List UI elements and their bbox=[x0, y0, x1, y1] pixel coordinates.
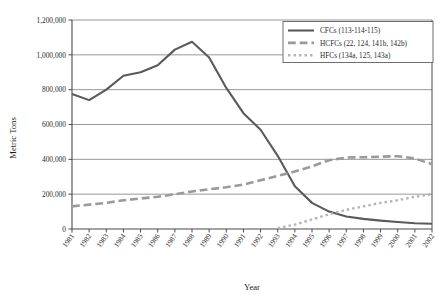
legend-label-1: CFCs (113-114-115) bbox=[320, 26, 381, 35]
chart-legend: CFCs (113-114-115)HCFCs (22, 124, 141b, … bbox=[283, 22, 433, 63]
chart-container: 0200,000400,000600,000800,0001,000,0001,… bbox=[0, 0, 448, 296]
y-tick-label: 800,000 bbox=[42, 85, 66, 94]
x-axis-title: Year bbox=[244, 282, 260, 292]
y-axis-title: Metric Tons bbox=[8, 117, 18, 159]
line-chart: 0200,000400,000600,000800,0001,000,0001,… bbox=[0, 0, 448, 296]
y-tick-label: 400,000 bbox=[42, 155, 66, 164]
y-tick-label: 0 bbox=[62, 225, 66, 234]
legend-label-2: HCFCs (22, 124, 141b, 142b) bbox=[320, 39, 408, 48]
y-tick-label: 1,000,000 bbox=[36, 51, 66, 60]
y-tick-label: 1,200,000 bbox=[36, 16, 66, 25]
legend-label-3: HFCs (134a, 125, 143a) bbox=[320, 51, 391, 60]
y-tick-label: 200,000 bbox=[42, 190, 66, 199]
y-tick-label: 600,000 bbox=[42, 120, 66, 129]
